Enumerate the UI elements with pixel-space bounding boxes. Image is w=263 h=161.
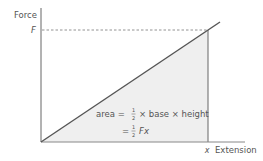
fraction-numerator: 1 xyxy=(132,107,135,113)
extension-marker-label: x xyxy=(204,146,210,155)
formula2-prefix: = xyxy=(122,126,129,136)
force-extension-diagram: Force F x Extension area = 1 2 × base × … xyxy=(0,0,263,161)
area-formula-line1: area = 1 2 × base × height xyxy=(96,107,209,121)
force-marker-label: F xyxy=(31,25,36,35)
fraction2-numerator: 1 xyxy=(132,124,135,130)
y-axis-label: Force xyxy=(14,10,37,20)
fraction2-denominator: 2 xyxy=(132,132,135,138)
formula-prefix: area = xyxy=(96,109,125,119)
fraction-denominator: 2 xyxy=(132,115,135,121)
formula-suffix: × base × height xyxy=(139,109,209,119)
formula2-suffix: Fx xyxy=(139,126,150,136)
x-axis-label: Extension xyxy=(215,145,257,155)
